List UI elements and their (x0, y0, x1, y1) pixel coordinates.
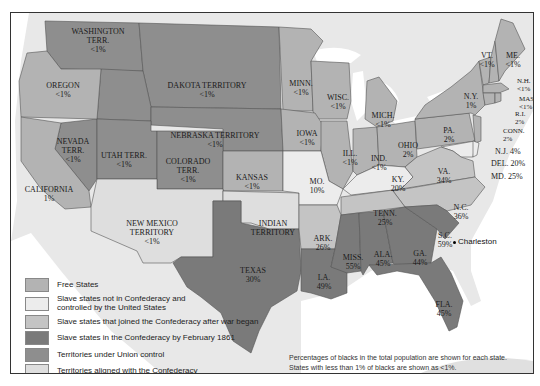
map-frame: WASHINGTONTERR.<1% OREGON<1% DAKOTA TERR… (10, 12, 534, 374)
charleston-marker (453, 241, 456, 244)
label-virginia: VA.34% (437, 167, 452, 185)
legend: Free States Slave states not in Confeder… (25, 277, 258, 374)
legend-item-territories-confederacy: Territories aligned with the Confederacy (25, 363, 258, 374)
region-utah (97, 119, 157, 179)
label-iowa: IOWA<1% (297, 129, 318, 147)
map-footnote: Percentages of blacks in the total popul… (289, 353, 507, 373)
label-new-mexico: NEW MEXICOTERRITORY<1% (126, 219, 178, 246)
legend-label: Territories under Union control (57, 351, 164, 360)
label-north-carolina: N.C.36% (453, 203, 468, 221)
legend-swatch (25, 331, 49, 345)
footnote-line-1: Percentages of blacks in the total popul… (289, 353, 507, 363)
label-missouri: MO.10% (310, 177, 325, 195)
label-minnesota: MINN.<1% (289, 79, 312, 97)
label-illinois: ILL.<1% (342, 149, 357, 167)
label-kentucky: KY.20% (391, 175, 406, 193)
label-new-jersey: N.J. 4% (495, 147, 521, 156)
label-tennessee: TENN.25% (373, 209, 396, 227)
legend-label: Territories aligned with the Confederacy (57, 367, 198, 374)
label-utah: UTAH TERR.<1% (101, 151, 147, 169)
label-delaware: DEL. 20% (491, 159, 525, 168)
region-idaho-part (97, 69, 151, 121)
label-pennsylvania: PA.2% (443, 126, 455, 144)
footnote-line-2: States with less than 1% of blacks are s… (289, 363, 507, 373)
legend-label: Slave states not in Confederacy andcontr… (57, 295, 186, 312)
legend-item-territories-union: Territories under Union control (25, 347, 258, 364)
legend-swatch (25, 297, 49, 311)
label-washington: WASHINGTONTERR.<1% (71, 27, 124, 54)
city-label-charleston: Charleston (458, 237, 497, 246)
label-dakota: DAKOTA TERRITORY<1% (168, 81, 247, 99)
label-california: CALIFORNIA1% (25, 185, 73, 203)
legend-label: Free States (57, 281, 98, 290)
label-wisconsin: WISC.<1% (327, 93, 349, 111)
label-louisiana: LA.49% (317, 273, 332, 291)
label-florida: FLA.45% (435, 300, 452, 318)
legend-label: Slave states that joined the Confederacy… (57, 318, 258, 327)
label-ohio: OHIO2% (398, 141, 418, 159)
label-michigan: MICH.<1% (372, 111, 395, 129)
label-new-hampshire: N.H.<1% (517, 77, 531, 93)
label-new-york: N.Y.1% (464, 92, 479, 110)
label-maine: ME.<1% (505, 51, 520, 69)
label-kansas: KANSAS<1% (236, 173, 268, 191)
legend-item-slave-joined-after-war: Slave states that joined the Confederacy… (25, 314, 258, 331)
label-oregon: OREGON<1% (46, 81, 79, 99)
legend-swatch (25, 364, 49, 374)
label-indian-territory: INDIANTERRITORY (251, 219, 295, 237)
legend-label: Slave states in the Confederacy by Febru… (57, 334, 235, 343)
legend-item-free-states: Free States (25, 277, 258, 294)
legend-swatch (25, 278, 49, 292)
label-maryland: MD. 25% (491, 172, 523, 181)
label-colorado: COLORADOTERR.<1% (166, 157, 210, 184)
legend-swatch (25, 315, 49, 329)
label-connecticut: CONN.2% (503, 127, 525, 143)
label-rhode-island: R.I.2% (515, 110, 526, 126)
label-vermont: VT.<1% (479, 51, 494, 69)
legend-item-slave-confederacy-feb-1861: Slave states in the Confederacy by Febru… (25, 330, 258, 347)
label-south-carolina: S.C.59% (438, 231, 453, 249)
label-massachusetts: MASS.<1% (519, 95, 534, 111)
label-georgia: GA.44% (413, 249, 428, 267)
label-nevada: NEVADATERR.<1% (57, 137, 90, 164)
label-alabama: ALA.45% (374, 250, 392, 268)
label-mississippi: MISS.55% (343, 253, 364, 271)
label-nebraska: NEBRASKA TERRITORY<1% (171, 131, 260, 149)
region-rhode-island (495, 93, 501, 103)
label-arkansas: ARK.26% (314, 234, 333, 252)
legend-item-slave-not-confederacy: Slave states not in Confederacy andcontr… (25, 294, 258, 314)
region-connecticut (483, 93, 495, 105)
label-indiana: IND.<1% (371, 154, 387, 172)
legend-swatch (25, 348, 49, 362)
